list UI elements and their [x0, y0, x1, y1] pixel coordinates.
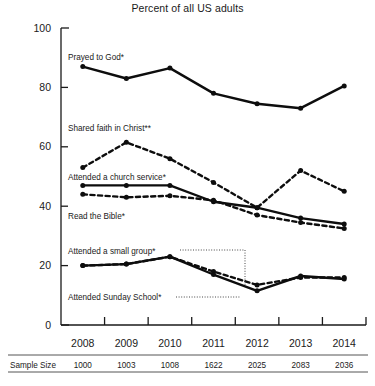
y-tick-label: 100: [33, 22, 51, 34]
sample-size-value: 1003: [117, 361, 136, 370]
data-point: [211, 272, 216, 277]
sample-size-value: 2036: [335, 361, 354, 370]
data-point: [298, 273, 303, 278]
data-point: [298, 220, 303, 225]
line-chart-plot: 020406080100 Prayed to God*Shared faith …: [0, 0, 375, 386]
y-tick-label: 60: [39, 140, 51, 152]
data-point: [124, 140, 129, 145]
series-annotation-label: Attended Sunday School*: [68, 293, 162, 302]
series-annotation-label: Prayed to God*: [68, 53, 125, 62]
y-tick-label: 20: [39, 259, 51, 271]
data-point: [255, 213, 260, 218]
data-point: [80, 165, 85, 170]
sample-size-value: 2025: [248, 361, 267, 370]
x-tick-label: 2011: [202, 337, 225, 349]
sample-size-value: 1008: [161, 361, 180, 370]
sample-size-value: 1000: [74, 361, 93, 370]
data-point: [167, 156, 172, 161]
data-point: [342, 276, 347, 281]
data-point: [124, 262, 129, 267]
x-tick-label: 2008: [71, 337, 95, 349]
data-point: [211, 180, 216, 185]
data-point: [211, 91, 216, 96]
sample-size-value: 2083: [292, 361, 311, 370]
data-point: [342, 83, 347, 88]
sample-size-row: Sample Size1000100310081622202520832036: [8, 355, 368, 372]
data-point: [255, 282, 260, 287]
x-axis-layer: 2008200920102011201220132014: [71, 317, 366, 349]
data-point: [167, 254, 172, 259]
x-tick-label: 2010: [158, 337, 182, 349]
series-annotation-label: Read the Bible*: [68, 212, 126, 221]
y-tick-label: 40: [39, 200, 51, 212]
data-point: [298, 168, 303, 173]
data-point: [255, 101, 260, 106]
chart-container: Percent of all US adults 020406080100 Pr…: [0, 0, 375, 386]
data-point: [255, 205, 260, 210]
series-annotation-label: Shared faith in Christ**: [68, 124, 152, 133]
data-point: [124, 76, 129, 81]
data-point: [80, 183, 85, 188]
series-annotation-label: Attended a church service*: [68, 173, 167, 182]
data-point: [167, 66, 172, 71]
series-annotation-label: Attended a small group*: [68, 247, 156, 256]
data-point: [342, 222, 347, 227]
data-point: [167, 193, 172, 198]
series-line: [83, 67, 344, 109]
data-point: [80, 64, 85, 69]
data-point: [124, 195, 129, 200]
data-point: [342, 226, 347, 231]
sample-size-header: Sample Size: [10, 361, 56, 370]
x-tick-label: 2012: [245, 337, 269, 349]
data-point: [298, 106, 303, 111]
data-point: [80, 263, 85, 268]
data-point: [211, 198, 216, 203]
data-point: [298, 216, 303, 221]
data-point: [80, 192, 85, 197]
x-tick-label: 2009: [115, 337, 139, 349]
data-point: [342, 189, 347, 194]
x-tick-label: 2013: [289, 337, 313, 349]
x-tick-label: 2014: [333, 337, 357, 349]
data-point: [255, 288, 260, 293]
y-tick-label: 80: [39, 81, 51, 93]
y-tick-label: 0: [45, 319, 51, 331]
data-point: [124, 183, 129, 188]
data-point: [167, 183, 172, 188]
sample-size-value: 1622: [204, 361, 223, 370]
